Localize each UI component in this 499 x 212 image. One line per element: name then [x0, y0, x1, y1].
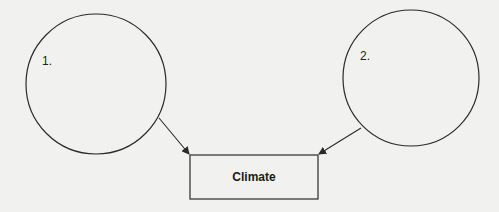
climate-label: Climate	[190, 155, 318, 199]
circle-2-label: 2.	[360, 49, 370, 63]
arrow-2-to-climate	[319, 128, 361, 154]
circle-node-1	[26, 14, 166, 154]
circle-1-label: 1.	[42, 54, 52, 68]
arrow-1-to-climate	[159, 118, 189, 154]
circle-node-2	[343, 10, 479, 146]
